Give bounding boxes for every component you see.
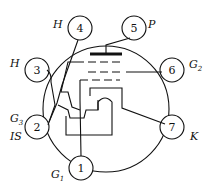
tube-diagram: 4 5 3 6 2 7 1 H P H G2 G3 IS K G1 [0,0,211,194]
pin-2-number: 2 [34,121,41,134]
g3-lead [61,62,80,110]
pin-5-number: 5 [131,22,138,35]
pin-1-label: G1 [51,168,64,183]
pin-2-label2: IS [9,130,22,143]
pin-6-number: 6 [169,64,176,77]
pin-7-number: 7 [169,121,176,134]
g1-lead [80,80,81,156]
pin-4-number: 4 [77,22,84,35]
pin-3-number: 3 [34,64,41,77]
pin-7-label: K [189,130,199,143]
pin-2-label: G3 [10,112,24,127]
pin-1-number: 1 [78,162,85,175]
cathode [90,88,165,124]
heater-wire [66,98,112,135]
envelope [43,46,169,172]
pin-5-label: P [147,18,156,31]
pin-4-label: H [52,18,63,31]
pin-3-label: H [9,57,20,70]
pin-6-label: G2 [189,58,203,73]
